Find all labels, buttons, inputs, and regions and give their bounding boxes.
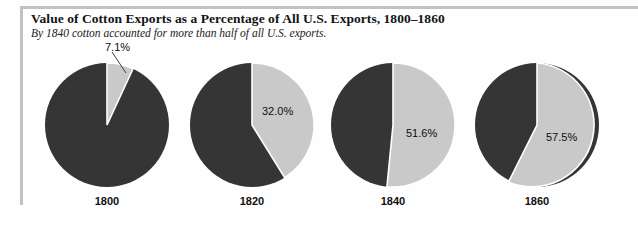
pie-chart-row: 1800 7.1% 1820 32.0% 1840 51.6% [0,0,638,229]
pie-percent-label-1860: 57.5% [546,131,577,143]
pie-chart-1800: 1800 [44,62,170,214]
pie-year-label-1860: 1860 [474,195,600,207]
pie-slice-cotton-1840 [387,63,455,187]
pie-chart-1840: 1840 51.6% [330,62,456,214]
pie-year-label-1840: 1840 [330,195,456,207]
pie-chart-1860: 1860 57.5% [474,62,600,214]
pie-svg-1820 [189,62,315,188]
cotton-exports-figure: Value of Cotton Exports as a Percentage … [0,0,638,229]
pie-svg-1800 [44,62,170,188]
pie-percent-label-1800: 7.1% [105,41,130,53]
pie-svg-1860 [474,62,600,188]
pie-year-label-1820: 1820 [189,195,315,207]
pie-svg-1840 [330,62,456,188]
pie-percent-label-1840: 51.6% [406,127,437,139]
pie-chart-1820: 1820 32.0% [189,62,315,214]
pie-percent-label-1820: 32.0% [262,105,293,117]
leader-line-1800 [110,52,132,74]
pie-year-label-1800: 1800 [44,195,170,207]
